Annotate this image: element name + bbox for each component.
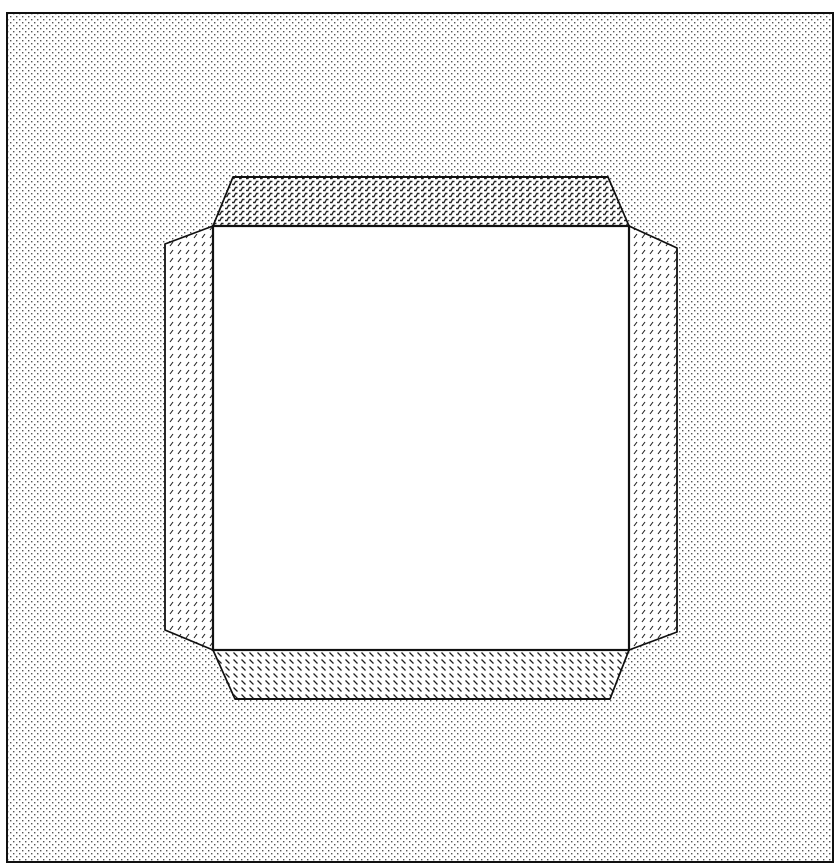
right-flap — [629, 226, 677, 650]
bottom-flap — [213, 650, 629, 699]
box-net-diagram — [0, 0, 837, 867]
diagram-canvas — [0, 0, 837, 867]
left-flap — [165, 226, 213, 650]
top-flap — [213, 177, 629, 226]
center-square — [213, 226, 629, 650]
